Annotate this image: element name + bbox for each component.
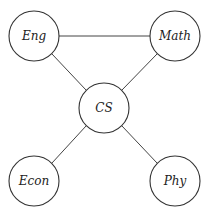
node-label-math: Math: [158, 29, 191, 43]
node-econ: Econ: [9, 156, 59, 206]
node-label-cs: CS: [95, 101, 112, 115]
node-cs: CS: [79, 83, 129, 133]
edge-cs-phy: [122, 126, 157, 163]
edge-math-cs: [122, 54, 157, 90]
graph-diagram: Eng Math CS Econ Phy: [0, 0, 209, 213]
edge-cs-econ: [52, 126, 86, 163]
node-label-eng: Eng: [21, 29, 46, 43]
node-label-econ: Econ: [18, 174, 49, 188]
edge-eng-cs: [52, 54, 86, 90]
node-phy: Phy: [150, 156, 200, 206]
node-label-phy: Phy: [163, 174, 187, 188]
node-eng: Eng: [9, 11, 59, 61]
node-math: Math: [150, 11, 200, 61]
